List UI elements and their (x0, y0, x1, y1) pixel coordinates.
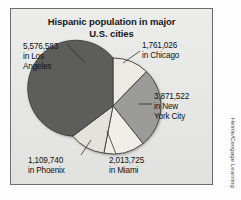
callout-new-york-city: 3,871,522 in New York City (154, 92, 216, 123)
callout-chicago: 1,761,026 in Chicago (142, 41, 212, 61)
figure-container: Hispanic population in majorU.S. cities (0, 0, 241, 200)
chart-panel: Hispanic population in majorU.S. cities (10, 8, 213, 185)
credit-container: Heinle/Cengage Learning (227, 92, 237, 182)
callout-los-angeles: 5,576,583 in Los Angeles (23, 42, 85, 73)
callout-phoenix: 1,109,740 in Phoenix (28, 156, 100, 176)
credit-text: Heinle/Cengage Learning (230, 118, 236, 188)
callout-miami: 2,013,725 in Miami (109, 156, 175, 176)
